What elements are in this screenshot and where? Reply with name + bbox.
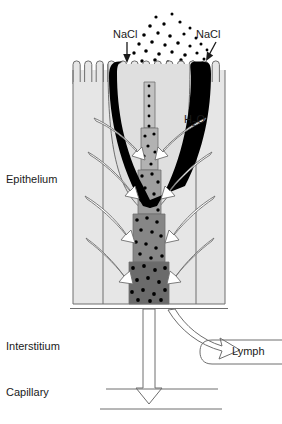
absorption-diagram — [0, 0, 282, 424]
label-lymph: Lymph — [232, 345, 265, 357]
label-capillary: Capillary — [6, 386, 49, 398]
label-epithelium: Epithelium — [6, 173, 57, 185]
label-nacl-left: NaCl — [113, 28, 137, 40]
label-nacl-right: NaCl — [196, 28, 220, 40]
h2o-oxygen: O — [196, 113, 205, 125]
label-h2o: H2O — [184, 113, 205, 128]
label-interstitium: Interstitium — [6, 340, 60, 352]
h2o-symbol: H — [184, 113, 192, 125]
